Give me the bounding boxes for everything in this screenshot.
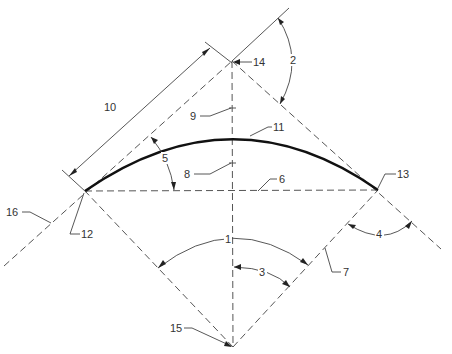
angle-arrow-icon [278, 18, 284, 25]
radius-line-left [85, 191, 233, 347]
label-12: 12 [81, 228, 93, 240]
label-3: 3 [259, 266, 265, 278]
dimension-arrow-icon [202, 48, 210, 56]
tangent-extension-line [232, 8, 289, 61]
leader-9 [200, 108, 231, 116]
vertical-axis-line [232, 61, 233, 347]
label-2: 2 [290, 54, 296, 66]
label-7: 7 [343, 266, 349, 278]
angle-arrow-icon [234, 264, 241, 270]
leader-7 [325, 248, 341, 272]
leader-16 [22, 212, 51, 223]
label-16: 16 [6, 206, 18, 218]
dimension-extension-right [205, 42, 232, 63]
chord-line [85, 190, 378, 191]
label-1: 1 [225, 233, 231, 245]
label-4: 4 [376, 228, 382, 240]
label-14: 14 [253, 56, 265, 68]
angle-arrow-icon [151, 137, 158, 144]
label-5: 5 [162, 152, 168, 164]
angle-arrow-icon [405, 221, 412, 229]
label-8: 8 [184, 168, 190, 180]
tangent-line-right [232, 61, 441, 249]
label-6: 6 [279, 173, 285, 185]
leader-13 [378, 174, 396, 188]
label-11: 11 [273, 121, 284, 133]
label-15: 15 [170, 322, 182, 334]
leader-6 [258, 179, 277, 191]
tangent-line-left [4, 61, 232, 266]
label-13: 13 [397, 168, 409, 180]
geometry-diagram: 10 2 5 1 3 4 6 7 8 9 11 12 13 14 [0, 0, 452, 354]
arc-curve [85, 139, 378, 191]
label-10: 10 [104, 101, 116, 113]
angle-arrow-icon [158, 260, 166, 268]
angle-arrow-icon [280, 96, 285, 104]
dimension-line-10 [69, 48, 210, 176]
leader-8 [194, 163, 231, 174]
leader-11 [250, 127, 272, 136]
dimension-arrow-icon [69, 168, 77, 176]
point-arrow-icon [233, 59, 240, 65]
angle-arrow-icon [300, 258, 308, 265]
label-9: 9 [190, 110, 196, 122]
radius-line-right [233, 190, 378, 347]
